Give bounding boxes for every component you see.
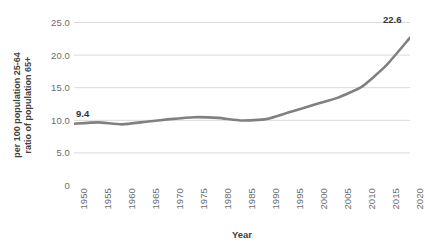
x-axis-tick-label: 1965: [150, 188, 161, 210]
x-axis-tick-label: 1990: [270, 188, 281, 210]
x-axis-tick-label: 2020: [414, 188, 425, 210]
x-axis-tick-label: 2015: [390, 188, 401, 210]
x-axis-tick-label: 1980: [222, 188, 233, 210]
y-axis-tick-label: 10.0: [36, 114, 70, 125]
x-axis-tick-label: 1960: [126, 188, 137, 210]
y-axis-tick-label: 0: [36, 180, 70, 191]
x-axis-tick-label: 1950: [78, 188, 89, 210]
y-axis-tick-label: 20.0: [36, 49, 70, 60]
x-axis-tick-label: 1985: [246, 188, 257, 210]
y-axis-tick-label: 5.0: [36, 147, 70, 158]
gridlines: [74, 23, 410, 186]
x-axis-tick-labels: 1950195519601965197019751980198519901995…: [74, 188, 410, 228]
data-label-end: 22.6: [383, 14, 402, 25]
y-axis-tick-label: 25.0: [36, 17, 70, 28]
y-axis-title-line-1: ratio of population 65+: [23, 56, 34, 153]
x-axis-tick-label: 2010: [366, 188, 377, 210]
x-axis-tick-label: 1970: [174, 188, 185, 210]
y-axis-tick-label: 15.0: [36, 82, 70, 93]
x-axis-tick-label: 1975: [198, 188, 209, 210]
x-axis-tick-label: 2000: [318, 188, 329, 210]
x-axis-tick-label: 2005: [342, 188, 353, 210]
y-axis-tick-labels: 25.020.015.010.05.00: [34, 0, 70, 250]
y-axis-title-line-2: per 100 population 25-64: [12, 52, 23, 158]
x-axis-tick-label: 1955: [102, 188, 113, 210]
x-axis-tick-label: 1995: [294, 188, 305, 210]
plot-area: [74, 22, 410, 185]
data-series-line: [74, 38, 410, 125]
x-axis-title: Year: [74, 229, 410, 240]
plot-svg: [74, 22, 410, 185]
data-label-start: 9.4: [76, 108, 89, 119]
